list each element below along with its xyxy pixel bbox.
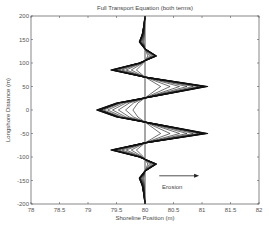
y-axis-ticks: 200150100500-50-100-150-200 (17, 13, 259, 207)
erosion-annotation: Erosion (159, 174, 199, 190)
x-tick-label: 78.5 (54, 207, 66, 213)
x-tick-label: 81.5 (225, 207, 237, 213)
y-tick-label: 200 (19, 13, 30, 19)
x-tick-label: 80 (142, 207, 149, 213)
y-tick-label: -50 (20, 131, 29, 137)
chart-title: Full Transport Equation (both terms) (97, 5, 193, 11)
x-tick-label: 79 (85, 207, 92, 213)
y-tick-label: -100 (17, 154, 30, 160)
y-tick-label: -150 (17, 178, 30, 184)
erosion-label: Erosion (162, 184, 182, 190)
x-tick-label: 79.5 (111, 207, 123, 213)
x-tick-label: 81 (199, 207, 206, 213)
x-axis-label: Shoreline Position (m) (115, 215, 174, 221)
arrowhead-icon (194, 174, 199, 178)
x-tick-label: 82 (256, 207, 263, 213)
x-tick-label: 80.5 (168, 207, 180, 213)
profile-line (133, 16, 161, 204)
y-tick-label: 150 (19, 37, 30, 43)
y-tick-label: 100 (19, 60, 30, 66)
y-tick-label: 0 (26, 107, 30, 113)
y-tick-label: -200 (17, 201, 30, 207)
x-tick-label: 78 (28, 207, 35, 213)
chart: Full Transport Equation (both terms) 787… (0, 0, 269, 230)
y-axis-label: Longshore Distance (m) (5, 78, 11, 142)
y-tick-label: 50 (22, 84, 29, 90)
